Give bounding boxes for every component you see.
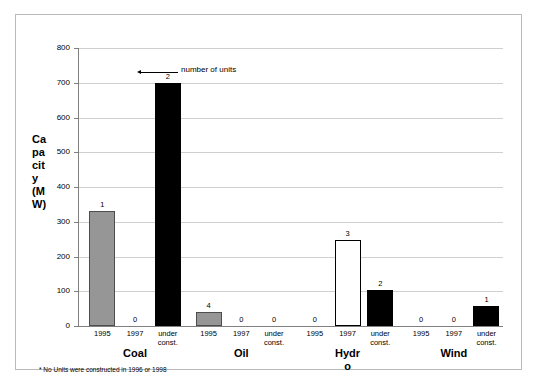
annotation-label: number of units <box>181 65 236 74</box>
bar <box>155 83 181 326</box>
annotation-leader-line <box>140 72 178 73</box>
y-axis-title-line: cit <box>32 159 62 172</box>
x-axis-tick-label-line: const. <box>358 338 402 347</box>
gridline <box>78 187 503 188</box>
bar <box>335 240 361 326</box>
y-axis-tick-label: 800 <box>30 44 70 52</box>
y-axis-tick-label: 300 <box>30 218 70 226</box>
x-axis-group-label: Hydro <box>325 347 371 373</box>
chart-frame: 0100200300400500600700800 Capacity(MW) 1… <box>15 14 522 370</box>
y-axis-tickmark <box>74 326 78 327</box>
bar-value-label: 4 <box>189 302 229 310</box>
x-axis-tick-label-line: under <box>252 329 296 338</box>
x-axis-group-label-line: Hydr <box>325 347 371 360</box>
y-axis-tickmark <box>74 257 78 258</box>
bar-value-label: 0 <box>434 316 474 324</box>
x-axis-tick-label-line: under <box>146 329 190 338</box>
y-axis-title-line: (M <box>32 185 62 198</box>
y-axis-tickmark <box>74 83 78 84</box>
y-axis-tickmark <box>74 291 78 292</box>
gridline <box>78 222 503 223</box>
y-axis-tickmark <box>74 152 78 153</box>
x-axis-tick-label: underconst. <box>464 329 508 347</box>
chart-footnote: * No Units were constructed in 1996 or 1… <box>39 366 167 374</box>
bar-value-label: 1 <box>466 296 506 304</box>
bar <box>89 211 115 326</box>
bar-value-label: 2 <box>360 280 400 288</box>
x-axis-group-label-line: Wind <box>431 347 477 360</box>
x-axis-tick-label-line: under <box>358 329 402 338</box>
x-axis-tick-label-line: const. <box>146 338 190 347</box>
bar-value-label: 0 <box>115 316 155 324</box>
x-axis-tick-label-line: const. <box>464 338 508 347</box>
gridline <box>78 83 503 84</box>
y-axis-tick-label: 600 <box>30 114 70 122</box>
y-axis-tick-label: 0 <box>30 322 70 330</box>
x-axis-line <box>78 326 503 327</box>
y-axis-tickmark <box>74 187 78 188</box>
y-axis-tick-label: 700 <box>30 79 70 87</box>
x-axis-group-label-line: Oil <box>218 347 264 360</box>
x-axis-tick-label: underconst. <box>252 329 296 347</box>
y-axis-tick-label: 200 <box>30 253 70 261</box>
gridline <box>78 152 503 153</box>
y-axis-title-line: pa <box>32 146 62 159</box>
bar <box>367 290 393 326</box>
y-axis-title: Capacity(MW) <box>32 133 62 211</box>
x-axis-tick-label-line: const. <box>252 338 296 347</box>
bar-value-label: 3 <box>328 230 368 238</box>
x-axis-group-label: Wind <box>431 347 477 360</box>
y-axis-tick-label: 100 <box>30 287 70 295</box>
y-axis-tickmark <box>74 222 78 223</box>
x-axis-group-label-line: o <box>325 360 371 373</box>
gridline <box>78 291 503 292</box>
y-axis-tickmark <box>74 118 78 119</box>
x-axis-tick-label-line: under <box>464 329 508 338</box>
bar-value-label: 1 <box>82 201 122 209</box>
bar-value-label: 0 <box>254 316 294 324</box>
bar <box>473 306 499 326</box>
bar-value-label: 0 <box>295 316 335 324</box>
gridline <box>78 48 503 49</box>
bar <box>196 312 222 326</box>
y-axis-tickmark <box>74 48 78 49</box>
x-axis-tick-label: underconst. <box>358 329 402 347</box>
y-axis-title-line: W) <box>32 198 62 211</box>
gridline <box>78 257 503 258</box>
y-axis-line <box>78 48 79 326</box>
y-axis-title-line: Ca <box>32 133 62 146</box>
x-axis-group-label: Coal <box>112 347 158 360</box>
y-axis-title-line: y <box>32 172 62 185</box>
x-axis-group-label-line: Coal <box>112 347 158 360</box>
x-axis-tick-label: underconst. <box>146 329 190 347</box>
gridline <box>78 118 503 119</box>
x-axis-group-label: Oil <box>218 347 264 360</box>
